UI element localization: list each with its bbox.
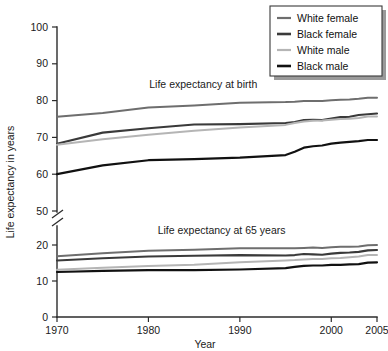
legend-label-black-female: Black female <box>297 28 357 40</box>
x-tick-label: 1980 <box>137 324 161 336</box>
axis-break-slash-lower <box>52 218 63 226</box>
life-expectancy-chart: 01020506070809010019701980199020002005Ye… <box>0 0 388 351</box>
annotation-at-65: Life expectancy at 65 years <box>158 224 286 236</box>
y-tick-label: 20 <box>36 239 48 251</box>
y-tick-label: 0 <box>42 311 48 323</box>
legend-label-white-female: White female <box>297 12 358 24</box>
series-line-black-male-group-1 <box>57 140 377 174</box>
y-tick-label: 90 <box>36 57 48 69</box>
x-tick-label: 1990 <box>228 324 252 336</box>
y-tick-label: 100 <box>30 21 48 33</box>
x-tick-label: 2000 <box>320 324 344 336</box>
annotation-birth: Life expectancy at birth <box>149 78 257 90</box>
y-axis-title: Life expectancy in years <box>4 126 16 239</box>
legend-label-white-male: White male <box>297 44 350 56</box>
y-tick-label: 60 <box>36 168 48 180</box>
chart-canvas: 01020506070809010019701980199020002005Ye… <box>0 0 388 351</box>
legend-label-black-male: Black male <box>297 60 349 72</box>
y-tick-label: 10 <box>36 275 48 287</box>
y-tick-label: 50 <box>36 205 48 217</box>
x-axis-title: Year <box>194 338 216 350</box>
x-tick-label: 1970 <box>45 324 69 336</box>
series-line-white-female-group-1 <box>57 98 377 117</box>
y-tick-label: 80 <box>36 94 48 106</box>
x-tick-label: 2005 <box>365 324 388 336</box>
series-line-white-male-group-1 <box>57 116 377 144</box>
y-tick-label: 70 <box>36 131 48 143</box>
